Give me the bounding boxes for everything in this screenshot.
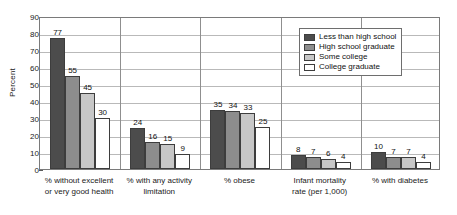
bar-wrapper: 45 bbox=[80, 18, 95, 169]
bar[interactable] bbox=[255, 127, 270, 170]
bar-value-label: 10 bbox=[374, 142, 383, 151]
bar[interactable] bbox=[130, 128, 145, 169]
bar-wrapper: 7 bbox=[401, 18, 416, 169]
legend-label: College graduate bbox=[319, 62, 380, 72]
bar-value-label: 55 bbox=[68, 66, 77, 75]
legend-swatch-icon bbox=[304, 44, 315, 51]
bar-wrapper: 77 bbox=[50, 18, 65, 169]
y-tick-label: 60 bbox=[5, 64, 39, 73]
y-tick-label: 40 bbox=[5, 98, 39, 107]
bar-value-label: 15 bbox=[163, 134, 172, 143]
bar-value-label: 45 bbox=[83, 83, 92, 92]
y-axis-ticks: 0102030405060708090 bbox=[0, 17, 39, 170]
y-tick-label: 90 bbox=[5, 13, 39, 22]
bar[interactable] bbox=[225, 111, 240, 169]
bar[interactable] bbox=[416, 162, 431, 169]
legend-item[interactable]: High school graduate bbox=[304, 42, 396, 52]
bar[interactable] bbox=[291, 155, 306, 169]
bar-value-label: 77 bbox=[53, 28, 62, 37]
legend-label: High school graduate bbox=[319, 42, 395, 52]
bar-wrapper: 24 bbox=[130, 18, 145, 169]
bar[interactable] bbox=[175, 154, 190, 169]
bar-value-label: 8 bbox=[296, 145, 300, 154]
y-tick-label: 10 bbox=[5, 149, 39, 158]
bar-value-label: 6 bbox=[326, 149, 330, 158]
legend-swatch-icon bbox=[304, 64, 315, 71]
legend-label: Some college bbox=[319, 52, 367, 62]
bar-value-label: 7 bbox=[406, 147, 410, 156]
y-tick-label: 80 bbox=[5, 30, 39, 39]
bar-wrapper: 4 bbox=[416, 18, 431, 169]
bar-group: 2416159 bbox=[120, 18, 200, 169]
bar[interactable] bbox=[145, 142, 160, 169]
bar[interactable] bbox=[306, 157, 321, 169]
y-tick-label: 30 bbox=[5, 115, 39, 124]
bar-wrapper: 55 bbox=[65, 18, 80, 169]
bar[interactable] bbox=[240, 113, 255, 169]
bar-value-label: 16 bbox=[148, 132, 157, 141]
bar-wrapper: 35 bbox=[210, 18, 225, 169]
bar-value-label: 4 bbox=[341, 152, 345, 161]
bar[interactable] bbox=[401, 157, 416, 169]
bar-value-label: 30 bbox=[98, 108, 107, 117]
legend-item[interactable]: Some college bbox=[304, 52, 396, 62]
bar[interactable] bbox=[80, 93, 95, 170]
bar-value-label: 24 bbox=[133, 118, 142, 127]
legend-item[interactable]: College graduate bbox=[304, 62, 396, 72]
bar-value-label: 4 bbox=[421, 152, 425, 161]
bar[interactable] bbox=[210, 110, 225, 170]
y-tick-label: 70 bbox=[5, 47, 39, 56]
bar-group: 35343325 bbox=[200, 18, 280, 169]
bar[interactable] bbox=[65, 76, 80, 170]
legend-item[interactable]: Less than high school bbox=[304, 32, 396, 42]
bar-value-label: 35 bbox=[214, 100, 223, 109]
bar[interactable] bbox=[95, 118, 110, 169]
legend-label: Less than high school bbox=[319, 32, 396, 42]
bar-wrapper: 9 bbox=[175, 18, 190, 169]
bar[interactable] bbox=[336, 162, 351, 169]
bar-value-label: 25 bbox=[259, 117, 268, 126]
bar-chart: Percent 0102030405060708090 775545302416… bbox=[0, 0, 457, 215]
y-tick-mark bbox=[39, 170, 43, 171]
bar-value-label: 33 bbox=[244, 103, 253, 112]
bar-value-label: 34 bbox=[229, 101, 238, 110]
bar-group: 77554530 bbox=[40, 18, 120, 169]
y-tick-label: 0 bbox=[5, 166, 39, 175]
bar[interactable] bbox=[321, 159, 336, 169]
legend: Less than high schoolHigh school graduat… bbox=[299, 28, 402, 76]
bar-value-label: 9 bbox=[181, 144, 185, 153]
bar-wrapper: 30 bbox=[95, 18, 110, 169]
x-axis-label: % with diabetes bbox=[348, 176, 452, 187]
legend-swatch-icon bbox=[304, 34, 315, 41]
bar-value-label: 7 bbox=[311, 147, 315, 156]
bar-wrapper: 15 bbox=[160, 18, 175, 169]
bar-wrapper: 25 bbox=[255, 18, 270, 169]
bar-wrapper: 16 bbox=[145, 18, 160, 169]
bar-wrapper: 34 bbox=[225, 18, 240, 169]
bar-wrapper: 33 bbox=[240, 18, 255, 169]
legend-swatch-icon bbox=[304, 54, 315, 61]
y-tick-label: 50 bbox=[5, 81, 39, 90]
bar[interactable] bbox=[371, 152, 386, 169]
bar-value-label: 7 bbox=[391, 147, 395, 156]
bar[interactable] bbox=[160, 144, 175, 170]
bar[interactable] bbox=[386, 157, 401, 169]
y-tick-label: 20 bbox=[5, 132, 39, 141]
bar[interactable] bbox=[50, 38, 65, 169]
